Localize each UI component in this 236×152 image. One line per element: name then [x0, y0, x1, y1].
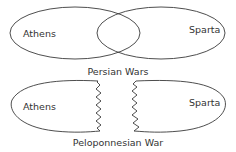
- athens-label: Athens: [23, 28, 56, 39]
- diagram-canvas: Athens Sparta Persian Wars Athens Sparta…: [0, 0, 236, 152]
- sparta-label-bottom: Sparta: [189, 97, 220, 108]
- venn-persian-wars: Athens Sparta Persian Wars: [10, 7, 225, 77]
- sparta-label: Sparta: [189, 24, 220, 35]
- persian-wars-caption: Persian Wars: [87, 66, 148, 77]
- peloponnesian-war-caption: Peloponnesian War: [73, 137, 163, 148]
- split-peloponnesian-war: Athens Sparta Peloponnesian War: [11, 80, 225, 148]
- athens-label-bottom: Athens: [23, 101, 56, 112]
